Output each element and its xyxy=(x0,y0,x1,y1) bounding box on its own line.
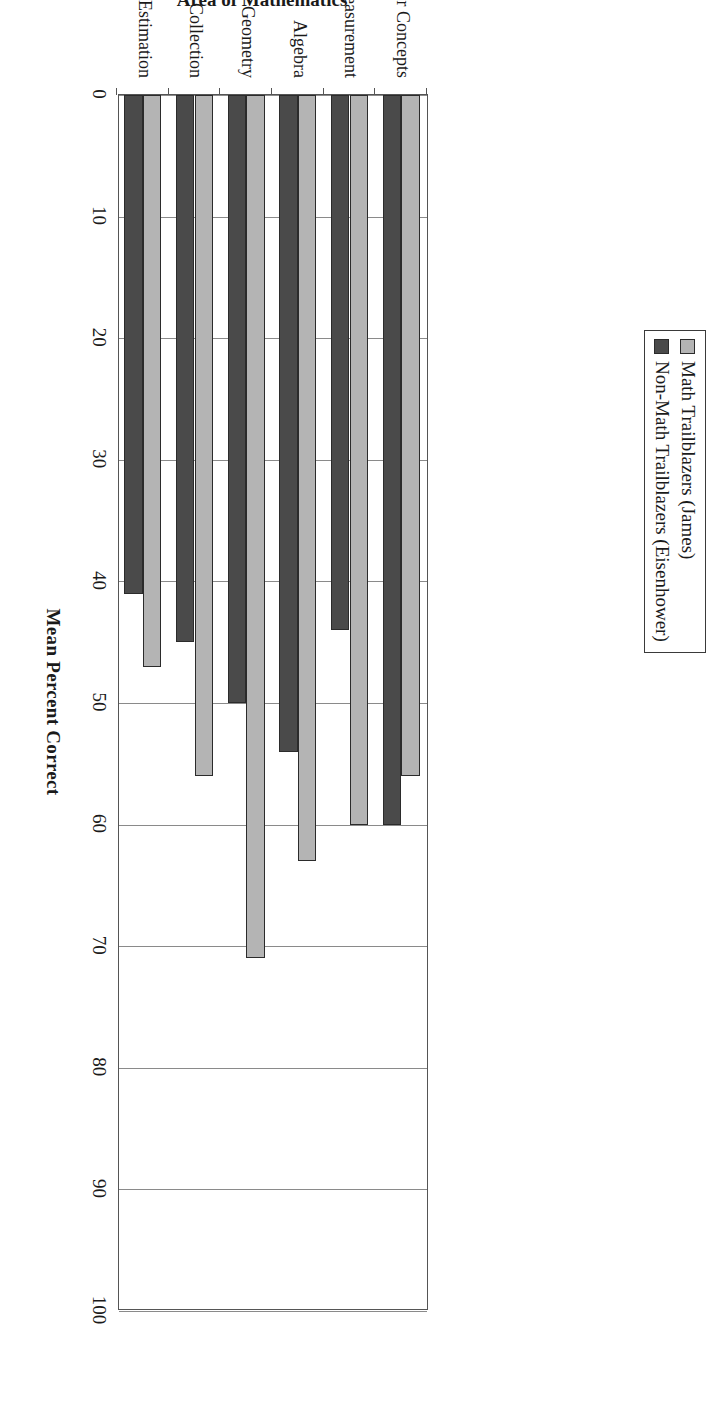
category-label-data-collection: Data Collection xyxy=(185,0,206,78)
gridline xyxy=(119,581,427,582)
value-tick-label-50: 50 xyxy=(88,693,110,712)
legend-label-series-2: Non-Math Trailblazers (Eisenhower) xyxy=(651,361,673,642)
gridline xyxy=(119,825,427,826)
category-tick-mark xyxy=(168,88,169,95)
value-axis-title: Mean Percent Correct xyxy=(42,94,64,1310)
bar-estimation-series-2 xyxy=(124,95,143,594)
value-tick-label-70: 70 xyxy=(88,936,110,955)
gridline xyxy=(119,946,427,947)
value-tick-label-0: 0 xyxy=(88,89,110,99)
value-tick-label-20: 20 xyxy=(88,328,110,347)
gridline xyxy=(119,1189,427,1190)
value-tick-label-90: 90 xyxy=(88,1179,110,1198)
bar-geometry-series-2 xyxy=(228,95,247,703)
category-label-estimation: Estimation xyxy=(133,0,154,78)
value-axis-tick-labels: 0102030405060708090100 xyxy=(68,94,114,1310)
bar-measurement-series-2 xyxy=(331,95,350,630)
bar-algebra-series-2 xyxy=(279,95,298,752)
gridline xyxy=(119,338,427,339)
bar-measurement-series-1 xyxy=(350,95,369,825)
gridline xyxy=(119,217,427,218)
gridline xyxy=(119,703,427,704)
rotated-figure-wrapper: Math Trailblazers (James) Non-Math Trail… xyxy=(0,0,724,1416)
gridline xyxy=(119,1068,427,1069)
bar-estimation-series-1 xyxy=(143,95,162,667)
value-tick-label-80: 80 xyxy=(88,1057,110,1076)
category-tick-mark xyxy=(323,88,324,95)
legend-entry-non-math-trailblazers: Non-Math Trailblazers (Eisenhower) xyxy=(651,339,673,642)
category-label-geometry: Geometry xyxy=(237,6,258,78)
value-tick-label-100: 100 xyxy=(88,1296,110,1325)
value-tick-label-60: 60 xyxy=(88,814,110,833)
category-tick-mark xyxy=(219,88,220,95)
gridline xyxy=(119,460,427,461)
plot-area xyxy=(118,94,428,1310)
category-label-measurement: Measurement xyxy=(340,0,361,78)
legend-swatch-icon-series-1 xyxy=(681,339,696,354)
category-axis-title: Area of Mathematics xyxy=(112,0,412,11)
category-tick-mark xyxy=(271,88,272,95)
bar-number-concepts-series-1 xyxy=(401,95,420,776)
category-axis-tick-labels: Number ConceptsMeasurementAlgebraGeometr… xyxy=(118,0,428,88)
category-tick-mark xyxy=(426,88,427,95)
bar-algebra-series-1 xyxy=(298,95,317,861)
legend-swatch-icon-series-2 xyxy=(655,339,670,354)
value-tick-label-10: 10 xyxy=(88,206,110,225)
category-tick-mark xyxy=(116,88,117,95)
value-tick-label-30: 30 xyxy=(88,449,110,468)
bar-number-concepts-series-2 xyxy=(383,95,402,825)
chart-legend: Math Trailblazers (James) Non-Math Trail… xyxy=(644,330,706,653)
bar-data-collection-series-2 xyxy=(176,95,195,642)
legend-label-series-1: Math Trailblazers (James) xyxy=(677,361,699,559)
category-label-number-concepts: Number Concepts xyxy=(392,0,413,78)
category-label-algebra: Algebra xyxy=(288,20,309,78)
bar-geometry-series-1 xyxy=(246,95,265,958)
bar-chart-figure: Math Trailblazers (James) Non-Math Trail… xyxy=(0,0,724,1416)
gridline xyxy=(119,1311,427,1312)
gridline xyxy=(119,95,427,96)
legend-entry-math-trailblazers: Math Trailblazers (James) xyxy=(677,339,699,642)
bar-data-collection-series-1 xyxy=(195,95,214,776)
value-tick-label-40: 40 xyxy=(88,571,110,590)
category-tick-mark xyxy=(374,88,375,95)
